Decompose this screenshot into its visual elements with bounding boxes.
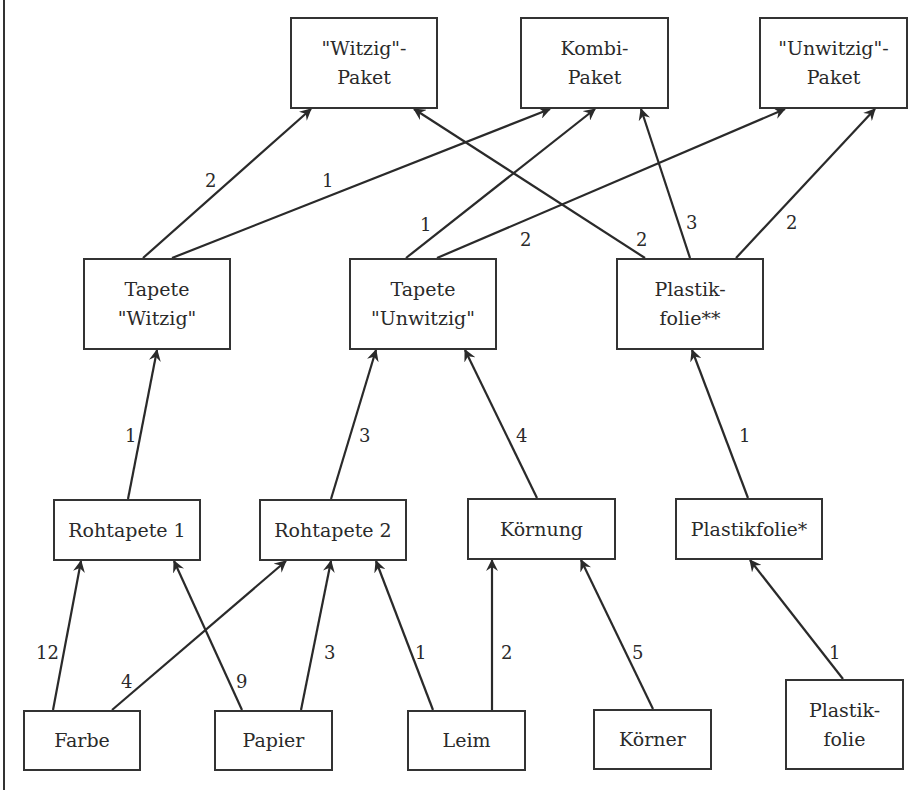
node-farbe: Farbe: [23, 710, 141, 771]
edge-quantity-label: 1: [125, 426, 136, 446]
edge-farbe-to-rohtapete_2: [112, 561, 286, 710]
edge-quantity-label: 1: [415, 643, 426, 663]
edge-quantity-label: 3: [686, 213, 697, 233]
edge-quantity-label: 4: [516, 426, 527, 446]
edge-quantity-label: 2: [501, 643, 512, 663]
node-witzig_paket: "Witzig"- Paket: [290, 17, 438, 109]
node-leim: Leim: [407, 710, 526, 771]
edge-quantity-label: 4: [121, 672, 132, 692]
node-papier: Papier: [214, 710, 333, 771]
edge-quantity-label: 1: [829, 643, 840, 663]
edge-quantity-label: 2: [786, 213, 797, 233]
node-rohtapete_1: Rohtapete 1: [53, 499, 201, 561]
edge-quantity-label: 5: [632, 643, 643, 663]
edge-quantity-label: 3: [324, 643, 335, 663]
edge-quantity-label: 2: [205, 171, 216, 191]
node-tapete_witzig: Tapete "Witzig": [83, 258, 231, 350]
edge-leim-to-rohtapete_2: [376, 561, 433, 710]
edge-plastikfolie_2-to-kombi_paket: [641, 109, 690, 258]
edge-quantity-label: 1: [322, 171, 333, 191]
edge-tapete_unwitzig-to-kombi_paket: [406, 109, 595, 258]
node-plastikfolie_1: Plastikfolie*: [675, 498, 823, 560]
node-unwitzig_paket: "Unwitzig"- Paket: [759, 17, 908, 109]
edge-quantity-label: 2: [520, 230, 531, 250]
node-tapete_unwitzig: Tapete "Unwitzig": [349, 258, 497, 350]
edge-papier-to-rohtapete_2: [301, 561, 331, 710]
edge-tapete_witzig-to-kombi_paket: [172, 109, 550, 258]
edge-farbe-to-rohtapete_1: [53, 561, 81, 710]
edge-quantity-label: 1: [420, 215, 431, 235]
edge-koerner-to-koernung: [581, 560, 653, 709]
gozinto-graph-edges: [0, 0, 917, 790]
edge-plastikfolie_1-to-plastikfolie_2: [692, 350, 748, 498]
node-plastikfolie_2: Plastik- folie**: [616, 258, 764, 350]
node-koernung: Körnung: [467, 498, 616, 560]
edge-quantity-label: 2: [636, 230, 647, 250]
edge-quantity-label: 12: [36, 643, 59, 663]
edge-quantity-label: 3: [359, 426, 370, 446]
node-plastikfolie: Plastik- folie: [785, 679, 904, 770]
node-kombi_paket: Kombi- Paket: [520, 17, 669, 109]
edge-koernung-to-tapete_unwitzig: [465, 350, 537, 498]
edge-quantity-label: 9: [236, 672, 247, 692]
edge-plastikfolie_2-to-unwitzig_paket: [736, 109, 875, 258]
edge-papier-to-rohtapete_1: [174, 561, 242, 710]
node-rohtapete_2: Rohtapete 2: [259, 499, 407, 561]
node-koerner: Körner: [593, 709, 712, 770]
edge-quantity-label: 1: [739, 426, 750, 446]
